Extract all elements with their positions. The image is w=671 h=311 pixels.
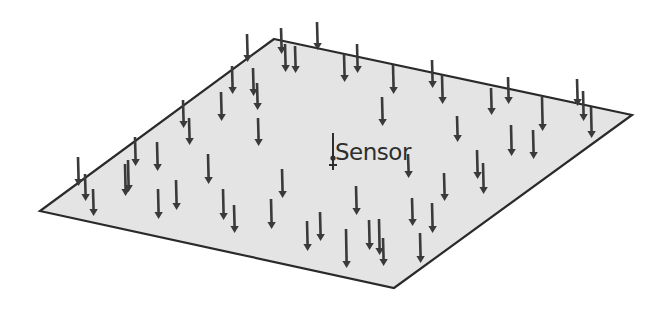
sensor-label: Sensor xyxy=(335,139,412,165)
sensor-marker-group: Sensor xyxy=(329,133,412,170)
vector-field-diagram: Sensor xyxy=(0,0,671,311)
